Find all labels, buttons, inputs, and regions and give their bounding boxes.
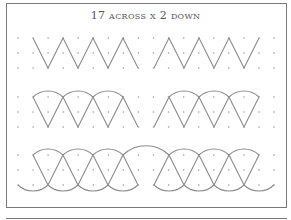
grid-dot xyxy=(123,111,125,113)
grid-dot xyxy=(32,52,34,54)
arc-line xyxy=(154,185,184,191)
grid-dot xyxy=(243,96,245,98)
grid-dot xyxy=(153,37,155,39)
grid-dot xyxy=(198,169,200,171)
grid-dot xyxy=(138,37,140,39)
arc-line xyxy=(123,146,169,155)
arc-line xyxy=(229,91,259,97)
grid-dot xyxy=(123,52,125,54)
grid-dot xyxy=(198,184,200,186)
grid-dot xyxy=(47,169,49,171)
arc-line xyxy=(78,185,108,191)
grid-dot xyxy=(77,111,79,113)
grid-dot xyxy=(183,111,185,113)
grid-dot xyxy=(228,126,230,128)
grid-dot xyxy=(258,111,260,113)
grid-dot xyxy=(108,96,110,98)
arc-line xyxy=(169,91,199,97)
grid-dot xyxy=(93,169,95,171)
pattern-lines xyxy=(18,38,274,191)
grid-dot xyxy=(93,184,95,186)
grid-dot xyxy=(228,111,230,113)
grid-dot xyxy=(32,111,34,113)
grid-dot xyxy=(93,126,95,128)
grid-dot xyxy=(213,52,215,54)
grid-dot xyxy=(213,96,215,98)
grid-dot xyxy=(228,184,230,186)
grid-dot xyxy=(273,67,275,69)
grid-dot xyxy=(273,154,275,156)
grid-dot xyxy=(183,169,185,171)
grid-dot xyxy=(17,111,19,113)
grid-dot xyxy=(108,154,110,156)
grid-dot xyxy=(77,96,79,98)
grid-dot xyxy=(77,169,79,171)
grid-dot xyxy=(153,111,155,113)
grid-dot xyxy=(243,52,245,54)
grid-dot xyxy=(93,52,95,54)
grid-dot xyxy=(168,169,170,171)
grid-dot xyxy=(273,37,275,39)
grid-dot xyxy=(243,154,245,156)
grid-dot xyxy=(77,52,79,54)
grid-dot xyxy=(273,52,275,54)
grid-dot xyxy=(47,154,49,156)
grid-dot xyxy=(32,67,34,69)
grid-dot xyxy=(32,184,34,186)
grid-dot xyxy=(93,111,95,113)
grid-dot xyxy=(258,184,260,186)
grid-dot xyxy=(258,169,260,171)
grid-dot xyxy=(228,67,230,69)
grid-dot xyxy=(17,96,19,98)
grid-dot xyxy=(228,52,230,54)
arc-line xyxy=(18,185,48,191)
grid-dot xyxy=(168,67,170,69)
grid-dot xyxy=(273,96,275,98)
grid-dot xyxy=(108,111,110,113)
grid-dot xyxy=(123,126,125,128)
grid-dot xyxy=(108,37,110,39)
grid-dot xyxy=(47,37,49,39)
arc-line xyxy=(63,149,93,155)
grid-dot xyxy=(153,169,155,171)
grid-dot xyxy=(77,154,79,156)
grid-dot xyxy=(138,154,140,156)
grid-dot xyxy=(17,154,19,156)
grid-dot xyxy=(17,52,19,54)
grid-dot xyxy=(123,169,125,171)
grid-dot xyxy=(93,67,95,69)
grid-dot xyxy=(138,52,140,54)
grid-dot xyxy=(32,169,34,171)
arc-line xyxy=(33,149,63,155)
grid-dot xyxy=(198,111,200,113)
grid-dot xyxy=(183,154,185,156)
dot-grid-pattern-diagram xyxy=(0,0,291,220)
grid-dot xyxy=(243,169,245,171)
grid-dot xyxy=(62,169,64,171)
grid-dot xyxy=(168,52,170,54)
grid-dot xyxy=(153,154,155,156)
grid-dot xyxy=(62,52,64,54)
arc-line xyxy=(93,149,123,155)
grid-dot xyxy=(77,37,79,39)
grid-dot xyxy=(17,37,19,39)
arc-line xyxy=(184,185,214,191)
grid-dot xyxy=(213,37,215,39)
grid-dot xyxy=(273,111,275,113)
grid-dot xyxy=(213,169,215,171)
grid-dot xyxy=(273,169,275,171)
grid-dot xyxy=(32,126,34,128)
arc-line xyxy=(108,185,138,191)
grid-dot xyxy=(108,52,110,54)
frame xyxy=(7,4,287,208)
arc-line xyxy=(214,185,244,191)
grid-dot xyxy=(183,96,185,98)
grid-dot xyxy=(243,111,245,113)
grid-dot xyxy=(123,184,125,186)
arc-line xyxy=(229,149,259,155)
grid-dot xyxy=(153,96,155,98)
grid-dot xyxy=(47,111,49,113)
grid-dot xyxy=(62,67,64,69)
grid-dot xyxy=(17,67,19,69)
grid-dot xyxy=(198,126,200,128)
